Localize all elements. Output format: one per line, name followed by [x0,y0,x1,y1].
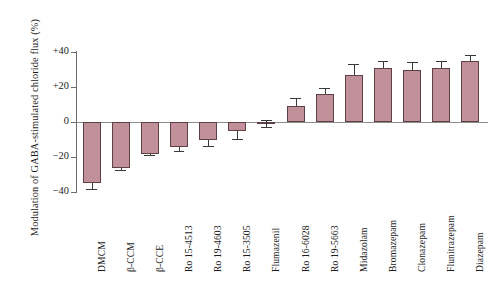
y-tick-label: −20 [33,151,69,161]
y-tick-label: −40 [33,186,69,196]
bar [316,94,334,122]
bar [461,61,479,122]
y-tick-label-wrap: 0 [29,116,69,128]
x-axis-label: Ro 15-4513 [183,225,194,272]
x-axis-label: Ro 15-3505 [241,225,252,272]
error-bar-cap [86,189,97,190]
error-bar-stem [354,64,355,75]
x-axis-label: Clonazepam [416,223,427,272]
x-axis-label: DMCM [96,241,107,272]
error-bar-cap [232,139,243,140]
bar [83,122,101,183]
x-axis-label: β-CCE [154,245,165,272]
error-bar-cap [174,151,185,152]
error-bar-cap [348,64,359,65]
plot-area [77,52,485,192]
y-tick-label-wrap: +20 [29,81,69,93]
error-bar-cap [290,98,301,99]
x-axis-label: Midazolam [358,227,369,272]
error-bar-cap [261,127,272,128]
bar [199,122,217,140]
error-bar-cap [378,61,389,62]
x-axis-label: Flunitrazepam [445,215,456,272]
bar [374,68,392,122]
chart-figure: Modulation of GABA-stimulated chloride f… [0,0,498,284]
x-axis-label: Ro 19-4603 [212,225,223,272]
error-bar-stem [383,61,384,68]
x-axis-label: Flumazenil [270,228,281,272]
y-tick-label-wrap: −40 [29,186,69,198]
y-tick-mark [71,192,77,193]
bar [112,122,130,168]
y-tick-label: +20 [33,81,69,91]
error-bar-cap [144,155,155,156]
error-bar-stem [441,61,442,68]
error-bar-cap [436,61,447,62]
bar [432,68,450,122]
error-bar-cap [465,55,476,56]
error-bar-stem [237,131,238,139]
y-tick-label-wrap: +40 [29,46,69,58]
y-tick-label: +40 [33,46,69,56]
y-tick-label-wrap: −20 [29,151,69,163]
error-bar-stem [296,98,297,107]
error-bar-cap [115,170,126,171]
x-axis-label: β-CCM [125,242,136,272]
error-bar-cap [407,62,418,63]
error-bar-cap [319,88,330,89]
bar [141,122,159,154]
x-axis-label: Bromazepam [387,220,398,272]
error-bar-stem [266,120,267,124]
bar [287,106,305,122]
y-tick-label: 0 [33,116,69,126]
bar [170,122,188,147]
error-bar-cap [203,146,214,147]
bar [403,70,421,123]
error-bar-stem [412,62,413,70]
bar [228,122,246,131]
x-axis-label: Ro 16-6028 [300,225,311,272]
x-axis-label: Ro 19-5663 [329,225,340,272]
x-axis-label: Diazepam [474,232,485,272]
bar [345,75,363,122]
